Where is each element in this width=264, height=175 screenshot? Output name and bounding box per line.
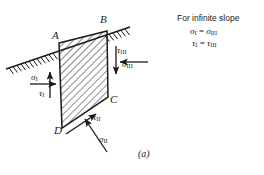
tau-two-subscript: II — [96, 115, 100, 122]
corner-label-c: C — [110, 93, 117, 105]
sigma-one-label: σI — [31, 72, 38, 82]
tau-one-label: τI — [39, 88, 44, 98]
equation-tau-equals: = — [197, 38, 207, 48]
corner-label-a: A — [52, 29, 59, 41]
figure-caption: (a) — [138, 148, 150, 159]
sigma-two-subscript: II — [103, 137, 107, 144]
equation-tau: τI = τIII — [192, 38, 217, 48]
sigma-three-subscript: III — [126, 62, 132, 69]
tau-two-label: τII — [93, 112, 101, 122]
sigma-two-label: σII — [99, 134, 108, 144]
sigma-three-label: σIII — [122, 59, 133, 69]
equation-tau-right-sub: III — [210, 41, 216, 48]
tau-three-label: τIII — [117, 45, 127, 55]
tau-three-subscript: III — [120, 48, 126, 55]
corner-label-b: B — [100, 13, 107, 25]
equation-sigma-right-sub: III — [211, 29, 217, 36]
note-title: For infinite slope — [177, 14, 239, 23]
equation-sigma-equals: = — [197, 26, 207, 36]
tau-one-subscript: I — [42, 91, 44, 98]
equation-sigma: σI = σIII — [190, 26, 217, 36]
corner-label-d: D — [54, 124, 62, 136]
soil-element-block — [59, 31, 108, 128]
sigma-one-subscript: I — [35, 75, 37, 82]
